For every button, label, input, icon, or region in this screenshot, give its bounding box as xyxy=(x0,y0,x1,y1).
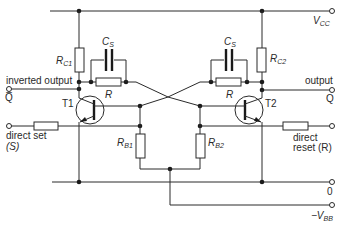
vcc-rail: VCC xyxy=(50,9,335,28)
cross-coupling xyxy=(104,82,232,108)
inverted-output-label: inverted output xyxy=(6,75,72,86)
svg-text:RB1: RB1 xyxy=(117,137,133,149)
vbb-terminal[interactable] xyxy=(330,203,335,208)
svg-text:R: R xyxy=(105,89,112,100)
svg-text:CS: CS xyxy=(224,36,236,48)
zero-terminal[interactable] xyxy=(330,180,335,185)
vbb-rail: −VBB xyxy=(170,203,335,223)
direct-reset-terminal[interactable] xyxy=(330,124,335,129)
vcc-terminal[interactable] xyxy=(330,9,335,14)
svg-text:RC2: RC2 xyxy=(270,53,286,65)
resistor-rb2: RB2 xyxy=(170,134,224,169)
speedup-network-right: CS R xyxy=(200,36,264,100)
resistor-rc2: RC2 xyxy=(257,11,286,90)
resistor-rc1: RC1 xyxy=(56,11,84,82)
q-bar-label: Q̅ xyxy=(5,92,13,103)
output-terminal[interactable] xyxy=(330,88,335,93)
output-label: output xyxy=(305,75,333,86)
svg-text:0: 0 xyxy=(327,186,333,197)
svg-text:reset (R): reset (R) xyxy=(293,142,332,153)
transistor-t2: T2 xyxy=(232,90,277,183)
svg-text:RC1: RC1 xyxy=(56,55,72,67)
svg-text:(S): (S) xyxy=(6,141,19,152)
transistor-t1: T1 xyxy=(62,96,104,183)
svg-text:RB2: RB2 xyxy=(208,137,224,149)
flip-flop-schematic: VCC RC1 RC2 inverted output Q̅ xyxy=(0,0,338,227)
zero-rail: 0 xyxy=(52,180,335,198)
svg-text:R: R xyxy=(226,89,233,100)
svg-text:direct set: direct set xyxy=(6,130,47,141)
inverted-output-terminal[interactable] xyxy=(7,87,12,92)
direct-set-terminal[interactable] xyxy=(7,124,12,129)
resistor-rb1: RB1 xyxy=(117,134,170,169)
svg-text:CS: CS xyxy=(102,36,114,48)
q-label: Q xyxy=(326,93,334,104)
svg-text:T1: T1 xyxy=(62,98,74,109)
svg-text:VCC: VCC xyxy=(313,15,331,27)
svg-text:T2: T2 xyxy=(265,98,277,109)
speedup-network-left: CS R xyxy=(79,36,136,100)
svg-text:−VBB: −VBB xyxy=(311,210,333,222)
